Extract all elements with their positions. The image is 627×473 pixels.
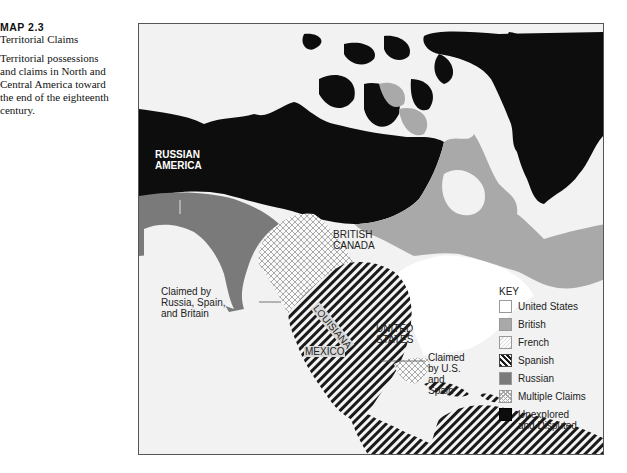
key-item-french: French bbox=[499, 336, 603, 354]
label-russian-america: RUSSIAN AMERICA bbox=[155, 149, 202, 171]
label-claimed-russia-spain-britain: Claimed by Russia, Spain, and Britain bbox=[161, 286, 225, 319]
swatch-multiple-claims bbox=[499, 390, 512, 403]
key-item-russian: Russian bbox=[499, 372, 603, 390]
map-title: Territorial Claims bbox=[0, 33, 128, 46]
map-number: MAP 2.3 bbox=[0, 21, 128, 33]
map-frame: RUSSIAN AMERICA BRITISH CANADA LOUISIANA… bbox=[138, 23, 604, 455]
map-caption: MAP 2.3 Territorial Claims Territorial p… bbox=[0, 21, 128, 117]
label-united-states: UNITED STATES bbox=[376, 323, 413, 345]
key-item-british: British bbox=[499, 318, 603, 336]
label-british-canada: BRITISH CANADA bbox=[333, 229, 375, 251]
label-mexico: MEXICO bbox=[304, 346, 345, 357]
key-item-multiple-claims: Multiple Claims bbox=[499, 390, 603, 408]
swatch-spanish bbox=[499, 354, 512, 367]
map-key: KEY United States British French Spanish… bbox=[499, 286, 603, 434]
swatch-united-states bbox=[499, 300, 512, 313]
map-description: Territorial possessions and claims in No… bbox=[0, 52, 128, 117]
swatch-russian bbox=[499, 372, 512, 385]
key-item-spanish: Spanish bbox=[499, 354, 603, 372]
swatch-british bbox=[499, 318, 512, 331]
key-title: KEY bbox=[499, 286, 603, 297]
key-item-unexplored: Unexplored and Disputed bbox=[499, 408, 603, 434]
swatch-french bbox=[499, 336, 512, 349]
key-item-united-states: United States bbox=[499, 300, 603, 318]
swatch-unexplored bbox=[499, 408, 512, 421]
label-claimed-us-spain: Claimed by U.S. and Spain bbox=[428, 352, 465, 396]
